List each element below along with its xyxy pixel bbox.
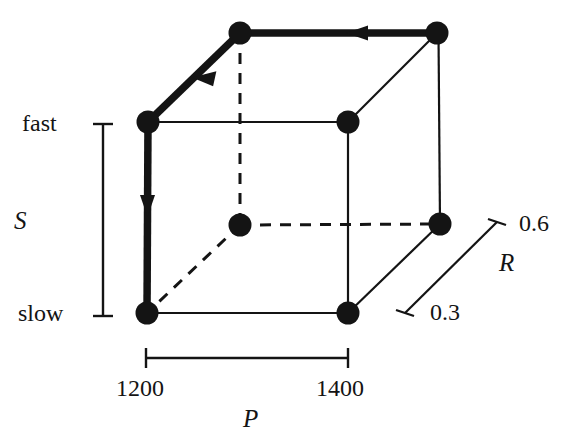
path-segment-front-left bbox=[147, 122, 148, 313]
node-front-bottom-right[interactable] bbox=[337, 302, 360, 325]
node-back-top-right[interactable] bbox=[426, 22, 449, 45]
arrowhead-left-icon bbox=[346, 26, 368, 41]
p-axis-low-label: 1200 bbox=[116, 376, 164, 400]
r-axis-name: R bbox=[499, 250, 514, 275]
p-axis-bracket bbox=[146, 348, 348, 368]
node-back-bottom-left[interactable] bbox=[229, 214, 252, 237]
edge-depth-bottom-right bbox=[348, 224, 440, 313]
node-back-top-left[interactable] bbox=[229, 22, 252, 45]
cube-diagram bbox=[0, 0, 578, 446]
edge-back-right bbox=[439, 33, 441, 224]
node-back-bottom-right[interactable] bbox=[429, 213, 452, 236]
r-axis-cap-high bbox=[488, 219, 506, 225]
node-front-bottom-left[interactable] bbox=[136, 302, 159, 325]
s-axis-low-label: slow bbox=[18, 301, 63, 325]
s-axis-high-label: fast bbox=[22, 111, 57, 135]
p-axis-high-label: 1400 bbox=[316, 376, 364, 400]
p-axis-name: P bbox=[243, 406, 258, 431]
node-front-top-left[interactable] bbox=[137, 111, 160, 134]
arrowhead-down-icon bbox=[140, 195, 155, 217]
s-axis-bracket bbox=[93, 124, 113, 316]
s-axis-name: S bbox=[14, 208, 27, 233]
r-axis-high-label: 0.6 bbox=[519, 211, 549, 235]
edge-hidden-horizontal bbox=[240, 224, 440, 225]
r-axis-low-label: 0.3 bbox=[430, 300, 460, 324]
r-axis-cap-low bbox=[396, 310, 414, 316]
edge-depth-top-right bbox=[348, 33, 437, 122]
node-front-top-right[interactable] bbox=[337, 111, 360, 134]
edge-hidden-depth bbox=[147, 225, 240, 313]
